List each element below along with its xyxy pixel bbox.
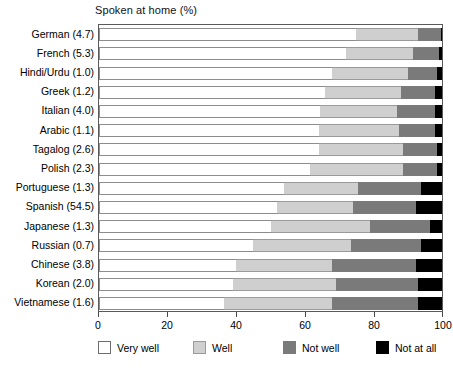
bar-segment-not-well: [336, 278, 418, 291]
bar-track: [99, 278, 442, 291]
bar-segment-well: [346, 47, 413, 60]
y-axis-label: Polish (2.3): [41, 162, 94, 174]
bar-row: [99, 124, 442, 137]
legend-swatch-icon: [193, 341, 206, 354]
bar-segment-not-well: [332, 259, 416, 272]
bar-segment-very-well: [99, 28, 356, 41]
y-axis-label: Portuguese (1.3): [16, 181, 94, 193]
bar-segment-not-well: [418, 28, 441, 41]
bar-track: [99, 259, 442, 272]
bar-segment-well: [277, 201, 352, 214]
bar-segment-not-at-all: [421, 239, 442, 252]
bar-segment-not-at-all: [435, 86, 442, 99]
bar-row: [99, 220, 442, 233]
bar-segment-very-well: [99, 201, 277, 214]
bar-segment-very-well: [99, 143, 319, 156]
bar-track: [99, 220, 442, 233]
bar-segment-not-at-all: [439, 47, 442, 60]
legend-label: Not well: [302, 342, 339, 354]
legend-swatch-icon: [376, 341, 389, 354]
legend-item-not-well[interactable]: Not well: [283, 341, 339, 354]
x-axis-tick-mark: [442, 312, 443, 317]
bar-segment-well: [310, 163, 403, 176]
x-axis-tick-mark: [374, 312, 375, 317]
bar-segment-not-well: [401, 86, 435, 99]
bar-row: [99, 278, 442, 291]
x-axis-tick-label: 60: [299, 319, 311, 331]
x-axis-tick-mark: [167, 312, 168, 317]
bar-segment-not-at-all: [441, 28, 442, 41]
x-axis-tick-mark: [236, 312, 237, 317]
x-axis-tick-label: 20: [161, 319, 173, 331]
legend-item-not-at-all[interactable]: Not at all: [376, 341, 436, 354]
bar-segment-well: [325, 86, 400, 99]
bar-segment-not-well: [370, 220, 430, 233]
bar-segment-well: [271, 220, 370, 233]
stacked-bar-chart: Spoken at home (%) German (4.7)French (5…: [0, 0, 453, 369]
bar-track: [99, 47, 442, 60]
bar-segment-not-at-all: [416, 259, 442, 272]
bar-row: [99, 239, 442, 252]
legend-label: Very well: [117, 342, 159, 354]
bar-segment-not-well: [413, 47, 439, 60]
x-axis-tick-label: 100: [434, 319, 452, 331]
bar-row: [99, 182, 442, 195]
x-axis-tick-label: 0: [95, 319, 101, 331]
bar-segment-well: [319, 124, 400, 137]
legend-swatch-icon: [283, 341, 296, 354]
y-axis-label: Russian (0.7): [32, 239, 94, 251]
bar-row: [99, 28, 442, 41]
bar-row: [99, 201, 442, 214]
bar-segment-not-at-all: [416, 201, 442, 214]
bar-segment-well: [332, 67, 407, 80]
bar-segment-very-well: [99, 259, 236, 272]
bar-segment-very-well: [99, 163, 310, 176]
bar-track: [99, 143, 442, 156]
bar-segment-very-well: [99, 182, 284, 195]
chart-title: Spoken at home (%): [95, 4, 197, 17]
plot-area: [98, 24, 443, 312]
bar-row: [99, 143, 442, 156]
y-axis-label: Arabic (1.1): [40, 124, 94, 136]
bar-track: [99, 239, 442, 252]
bar-row: [99, 105, 442, 118]
bar-track: [99, 201, 442, 214]
bar-segment-not-at-all: [418, 278, 442, 291]
bar-segment-not-well: [397, 105, 435, 118]
x-axis-tick-mark: [98, 312, 99, 317]
bar-segment-very-well: [99, 220, 271, 233]
y-axis-label: Japanese (1.3): [24, 220, 94, 232]
bar-segment-very-well: [99, 105, 320, 118]
y-axis-label: Chinese (3.8): [31, 258, 94, 270]
legend-label: Not at all: [395, 342, 436, 354]
y-axis-label: Vietnamese (1.6): [14, 296, 94, 308]
bar-segment-not-at-all: [435, 124, 442, 137]
chart-legend: Very wellWellNot wellNot at all: [98, 341, 443, 361]
bar-segment-well: [320, 105, 397, 118]
bar-segment-not-well: [353, 201, 416, 214]
y-axis-label: Italian (4.0): [41, 104, 94, 116]
y-axis-label: Hindi/Urdu (1.0): [20, 66, 94, 78]
bar-track: [99, 297, 442, 310]
bar-segment-well: [319, 143, 403, 156]
x-axis-tick-mark: [305, 312, 306, 317]
legend-item-very-well[interactable]: Very well: [98, 341, 159, 354]
bar-track: [99, 28, 442, 41]
legend-item-well[interactable]: Well: [193, 341, 232, 354]
x-axis-tick-label: 40: [230, 319, 242, 331]
bar-segment-well: [236, 259, 332, 272]
legend-label: Well: [212, 342, 232, 354]
bar-segment-very-well: [99, 67, 332, 80]
bar-segment-not-at-all: [418, 297, 442, 310]
bar-segment-not-at-all: [437, 163, 442, 176]
bar-segment-not-at-all: [437, 143, 442, 156]
bar-segment-well: [233, 278, 336, 291]
bars-layer: [99, 25, 442, 311]
bar-track: [99, 182, 442, 195]
y-axis-label: Spanish (54.5): [26, 200, 94, 212]
bar-segment-very-well: [99, 47, 346, 60]
bar-segment-very-well: [99, 86, 325, 99]
bar-segment-very-well: [99, 124, 319, 137]
bar-segment-not-well: [332, 297, 418, 310]
bar-row: [99, 47, 442, 60]
